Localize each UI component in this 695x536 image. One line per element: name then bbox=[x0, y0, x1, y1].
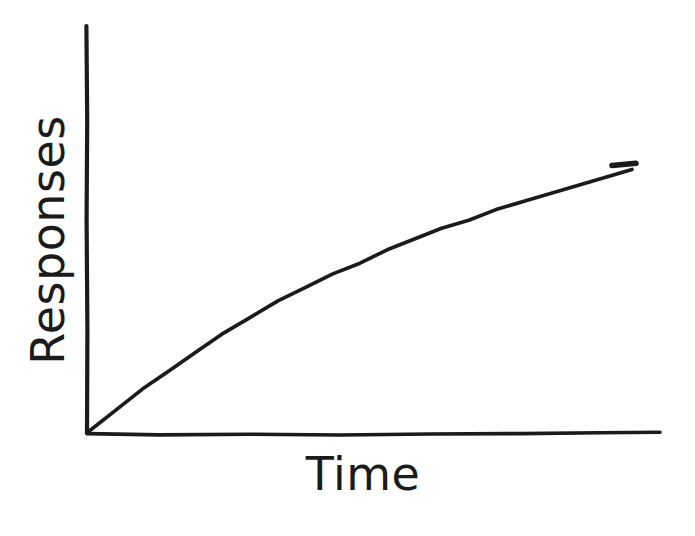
x-axis-label: Time bbox=[306, 451, 421, 497]
cumulative-response-chart: Responses Time bbox=[0, 0, 695, 536]
y-axis-line bbox=[86, 26, 87, 433]
curve-endpoint-blob bbox=[612, 163, 636, 165]
y-axis-label: Responses bbox=[25, 115, 71, 364]
